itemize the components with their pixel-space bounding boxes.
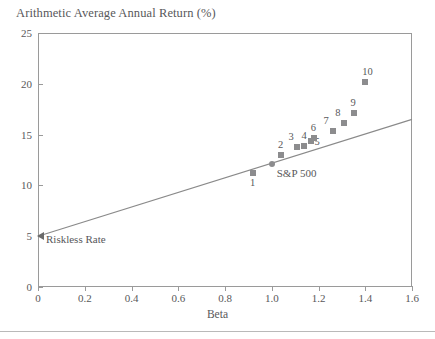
y-tick-label: 10 <box>6 179 32 191</box>
x-tick-label: 0.4 <box>117 292 147 304</box>
x-tick <box>178 286 179 291</box>
y-tick <box>38 185 43 186</box>
sp500-label: S&P 500 <box>277 167 317 179</box>
x-tick-label: 0 <box>23 292 53 304</box>
x-tick-label: 0.6 <box>163 292 193 304</box>
data-point-label: 7 <box>324 115 329 126</box>
x-tick-label: 1.2 <box>304 292 334 304</box>
x-tick-label: 0.8 <box>210 292 240 304</box>
data-point-label: 1 <box>250 177 255 188</box>
chart-figure: Arithmetic Average Annual Return (%) 051… <box>0 0 435 339</box>
x-tick <box>272 286 273 291</box>
x-tick <box>132 286 133 291</box>
x-tick <box>412 286 413 291</box>
x-tick-label: 1.0 <box>257 292 287 304</box>
plot-area <box>38 33 412 287</box>
riskless-rate-marker <box>37 232 44 240</box>
data-point-marker <box>311 135 317 141</box>
data-point-marker <box>341 120 347 126</box>
riskless-rate-label: Riskless Rate <box>46 233 106 245</box>
data-point-marker <box>362 79 368 85</box>
data-point-marker <box>301 143 307 149</box>
y-tick <box>38 33 43 34</box>
data-point-label: 2 <box>278 139 283 150</box>
x-tick-label: 1.6 <box>397 292 427 304</box>
x-axis-label: Beta <box>0 308 435 320</box>
y-tick <box>38 84 43 85</box>
x-tick <box>225 286 226 291</box>
y-tick <box>38 135 43 136</box>
data-point-label: 3 <box>288 131 293 142</box>
y-tick-label: 5 <box>6 230 32 242</box>
x-tick <box>38 286 39 291</box>
data-point-marker <box>278 152 284 158</box>
chart-title: Arithmetic Average Annual Return (%) <box>16 6 216 21</box>
data-point-marker <box>330 128 336 134</box>
data-point-label: 8 <box>335 107 340 118</box>
sp500-marker <box>269 161 275 167</box>
data-point-label: 6 <box>311 122 316 133</box>
x-tick <box>85 286 86 291</box>
data-point-marker <box>351 110 357 116</box>
data-point-label: 10 <box>362 66 373 77</box>
y-tick-label: 20 <box>6 78 32 90</box>
footer-divider <box>0 331 435 332</box>
data-point-marker <box>250 170 256 176</box>
x-tick-label: 1.4 <box>350 292 380 304</box>
y-tick-label: 15 <box>6 129 32 141</box>
y-tick-label: 25 <box>6 27 32 39</box>
data-point-marker <box>294 144 300 150</box>
x-tick <box>365 286 366 291</box>
x-tick <box>319 286 320 291</box>
x-tick-label: 0.2 <box>70 292 100 304</box>
data-point-label: 9 <box>351 97 356 108</box>
data-point-label: 4 <box>301 130 306 141</box>
